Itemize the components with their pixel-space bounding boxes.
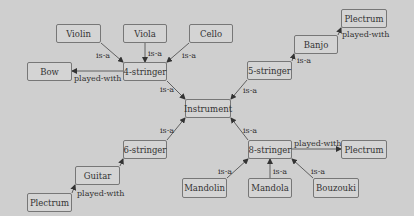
node-guitar[interactable]: Guitar xyxy=(75,166,120,185)
edge-label: played-with xyxy=(294,140,341,148)
node-mandola[interactable]: Mandola xyxy=(248,178,292,198)
node-violin[interactable]: Violin xyxy=(56,24,101,43)
instrument-ontology-diagram: is-ais-ais-aplayed-withis-aplayed-withis… xyxy=(0,0,414,216)
edge-label: is-a xyxy=(297,57,311,65)
edge-label: played-with xyxy=(74,75,121,83)
node-cello[interactable]: Cello xyxy=(189,24,233,43)
node-banjo[interactable]: Banjo xyxy=(294,35,338,54)
node-four-stringer[interactable]: 4-stringer xyxy=(123,62,167,81)
node-five-stringer[interactable]: 5-stringer xyxy=(247,61,292,80)
edge-label: is-a xyxy=(273,168,287,176)
edge-label: is-a xyxy=(182,52,196,60)
node-plectrum-top[interactable]: Plectrum xyxy=(341,9,387,28)
node-plectrum-right[interactable]: Plectrum xyxy=(341,140,387,159)
node-viola[interactable]: Viola xyxy=(123,24,167,43)
edge-label: is-a xyxy=(160,127,174,135)
edge-label: is-a xyxy=(311,168,325,176)
edge-label: is-a xyxy=(218,168,232,176)
edge-bouzouki-to-eight-stringer xyxy=(292,159,313,178)
node-instrument[interactable]: Instrument xyxy=(185,99,231,118)
node-plectrum-left[interactable]: Plectrum xyxy=(27,193,72,212)
edge-label: is-a xyxy=(243,127,257,135)
edge-label: is-a xyxy=(243,87,257,95)
edge-guitar-to-six-stringer xyxy=(120,159,123,166)
edge-five-stringer-to-banjo xyxy=(292,54,294,61)
edge-label: is-a xyxy=(96,52,110,60)
node-bow[interactable]: Bow xyxy=(27,62,72,81)
edge-banjo-to-plectrum-top xyxy=(338,28,341,35)
node-six-stringer[interactable]: 6-stringer xyxy=(123,140,167,159)
edge-label: played-with xyxy=(77,190,124,198)
node-mandolin[interactable]: Mandolin xyxy=(182,178,227,198)
node-bouzouki[interactable]: Bouzouki xyxy=(313,178,359,198)
edge-label: is-a xyxy=(148,50,162,58)
edge-plectrum-left-to-guitar xyxy=(72,185,75,193)
node-eight-stringer[interactable]: 8-stringer xyxy=(248,140,292,159)
edge-label: played-with xyxy=(342,31,389,39)
edge-label: is-a xyxy=(160,86,174,94)
